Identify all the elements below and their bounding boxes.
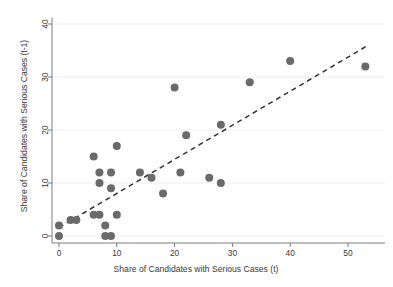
data-point xyxy=(205,174,213,182)
scatter-plot-figure: 01020304001020304050 Share of Candidates… xyxy=(0,0,393,287)
data-point xyxy=(95,211,103,219)
x-tick-label-50: 50 xyxy=(343,248,353,258)
data-point xyxy=(113,211,121,219)
grid-lines xyxy=(52,24,385,236)
data-point xyxy=(286,57,294,65)
data-point xyxy=(217,179,225,187)
x-axis-label: Share of Candidates with Serious Cases (… xyxy=(114,264,279,274)
data-point xyxy=(176,168,184,176)
data-point xyxy=(107,232,115,240)
x-tick-label-0: 0 xyxy=(57,248,62,258)
data-point xyxy=(101,221,109,229)
y-tick-label-10: 10 xyxy=(40,178,50,188)
x-tick-label-30: 30 xyxy=(228,248,238,258)
data-point xyxy=(246,78,254,86)
tick-labels: 01020304001020304050 xyxy=(40,19,353,258)
x-tick-label-20: 20 xyxy=(170,248,180,258)
fit-line-group xyxy=(59,45,368,227)
data-point xyxy=(95,179,103,187)
data-point xyxy=(217,121,225,129)
y-tick-label-40: 40 xyxy=(40,19,50,29)
data-point xyxy=(107,184,115,192)
data-points xyxy=(55,57,369,240)
data-point xyxy=(361,62,369,70)
data-point xyxy=(90,153,98,161)
data-point xyxy=(182,131,190,139)
data-point xyxy=(95,168,103,176)
data-point xyxy=(136,168,144,176)
y-tick-label-20: 20 xyxy=(40,125,50,135)
x-tick-label-40: 40 xyxy=(286,248,296,258)
data-point xyxy=(107,168,115,176)
x-tick-label-10: 10 xyxy=(112,248,122,258)
regression-fit-line xyxy=(59,45,368,227)
data-point xyxy=(147,174,155,182)
y-axis-label: Share of Candidates with Serious Cases (… xyxy=(19,40,29,213)
data-point xyxy=(159,190,167,198)
y-tick-label-0: 0 xyxy=(40,233,50,238)
data-point xyxy=(55,232,63,240)
data-point xyxy=(113,142,121,150)
data-point xyxy=(171,84,179,92)
y-tick-label-30: 30 xyxy=(40,72,50,82)
data-point xyxy=(72,216,80,224)
plot-canvas: 01020304001020304050 Share of Candidates… xyxy=(0,0,393,287)
data-point xyxy=(55,221,63,229)
